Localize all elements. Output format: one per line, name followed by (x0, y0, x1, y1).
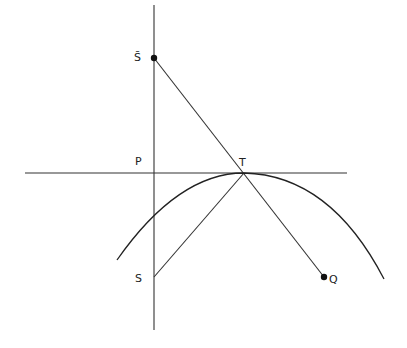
label-s-bar: S̄ (134, 51, 141, 64)
point-s-bar-dot (151, 55, 157, 61)
label-t: T (238, 156, 246, 169)
reflection-diagram: S̄ P T S Q (0, 0, 407, 348)
circular-arc (117, 173, 384, 279)
label-s: S (135, 272, 142, 285)
segment-s-t (154, 173, 244, 277)
label-q: Q (329, 273, 338, 286)
point-q-dot (321, 274, 327, 280)
label-p: P (135, 155, 142, 168)
